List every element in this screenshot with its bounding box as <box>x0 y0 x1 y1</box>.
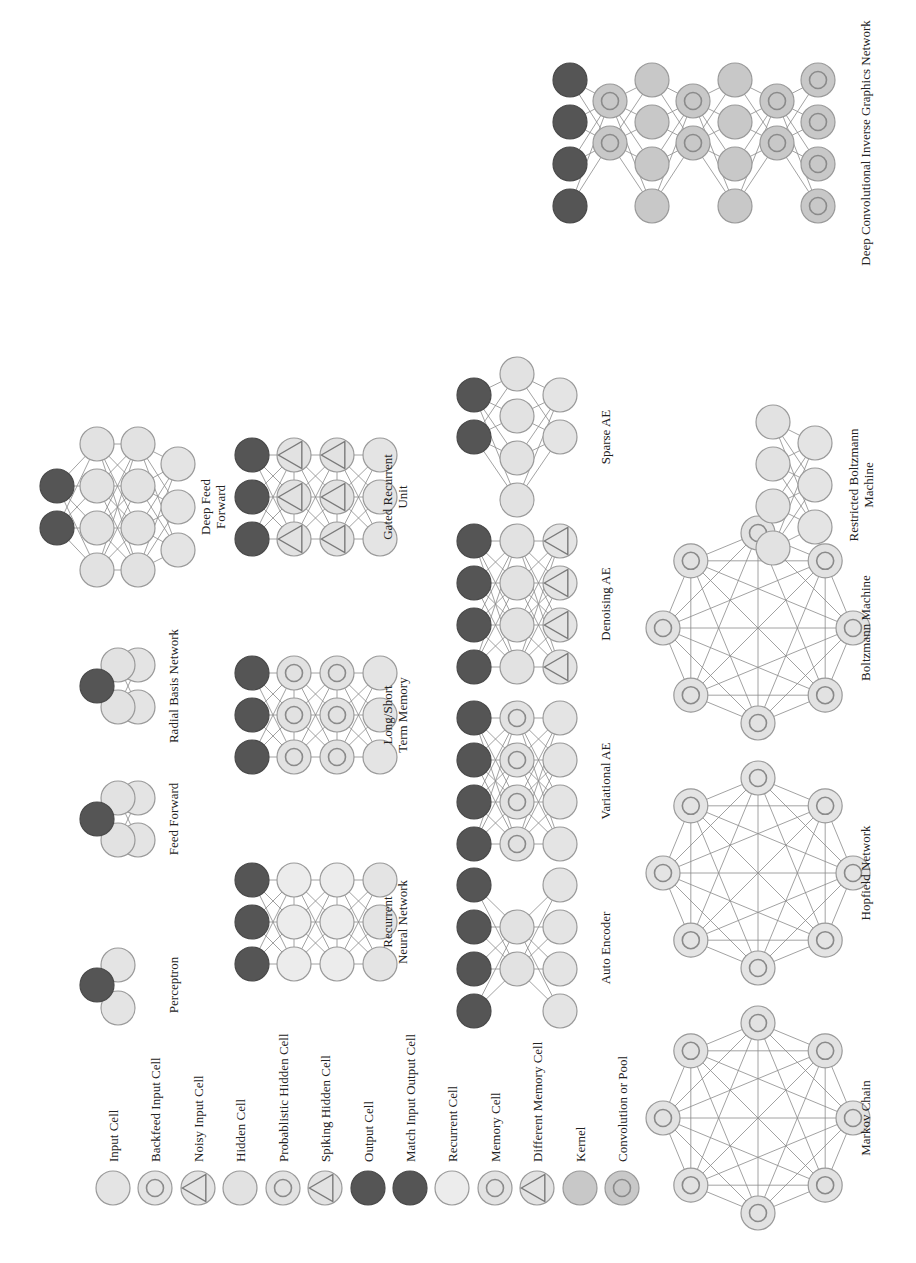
deep-feed-forward-cell-icon <box>161 447 195 481</box>
denoising-ae-cell-icon <box>543 524 577 558</box>
denoising-ae-cell-icon <box>457 650 491 684</box>
rnn-cell-icon <box>363 863 397 897</box>
legend-label-backfeed-input-cell: Backfeed Input Cell <box>148 1057 163 1162</box>
label-feed-forward: Feed Forward <box>166 782 181 855</box>
legend-recurrent-cell-cell-icon <box>435 1171 469 1205</box>
label-sparse-ae: Sparse AE <box>598 410 613 465</box>
dcign-cell-icon <box>553 147 587 181</box>
denoising-ae-cell-icon <box>543 608 577 642</box>
legend-backfeed-input-cell-cell-icon <box>138 1171 172 1205</box>
nodes-layer <box>40 63 870 1230</box>
legend-label-kernel: Kernel <box>573 1126 588 1162</box>
legend-label-convolution-or-pool: Convolution or Pool <box>615 1055 630 1162</box>
auto-encoder-cell-icon <box>500 952 534 986</box>
auto-encoder-cell-icon <box>543 994 577 1028</box>
variational-ae-cell-icon <box>500 743 534 777</box>
variational-ae-cell-icon <box>457 743 491 777</box>
label-long-short-term-memory: Long/ShortTerm Memory <box>380 677 410 753</box>
sparse-ae-cell-icon <box>500 357 534 391</box>
boltzmann-cell-icon <box>646 611 680 645</box>
rbm-cell-icon <box>756 405 790 439</box>
label-deep-feed-forward: Deep FeedForward <box>198 479 228 535</box>
label-hopfield-network: Hopfield Network <box>858 825 873 920</box>
sparse-ae-cell-icon <box>543 420 577 454</box>
deep-feed-forward-cell-icon <box>161 490 195 524</box>
dcign-cell-icon <box>718 105 752 139</box>
perceptron-cell-icon <box>80 968 114 1002</box>
dcign-cell-icon <box>553 63 587 97</box>
label-gated-recurrent-unit: Gated RecurrentUnit <box>380 454 410 540</box>
auto-encoder-cell-icon <box>457 952 491 986</box>
variational-ae-cell-icon <box>457 701 491 735</box>
sparse-ae-cell-icon <box>457 420 491 454</box>
dcign-cell-icon <box>760 84 794 118</box>
sparse-ae-cell-icon <box>543 378 577 412</box>
deep-feed-forward-cell-icon <box>121 469 155 503</box>
lstm-cell-icon <box>320 656 354 690</box>
rbm-cell-icon <box>756 489 790 523</box>
rbm-cell-icon <box>798 510 832 544</box>
dcign-cell-icon <box>593 84 627 118</box>
legend-input-cell-cell-icon <box>96 1171 130 1205</box>
auto-encoder-cell-icon <box>457 910 491 944</box>
gru-cell-icon <box>277 438 311 472</box>
rnn-cell-icon <box>277 905 311 939</box>
dcign-cell-icon <box>593 126 627 160</box>
label-restricted-boltzmann-machine: Restricted BoltzmannMachine <box>846 428 876 542</box>
dcign-cell-icon <box>635 63 669 97</box>
rnn-cell-icon <box>320 947 354 981</box>
label-perceptron: Perceptron <box>166 956 181 1013</box>
hopfield-cell-icon <box>674 923 708 957</box>
sparse-ae-cell-icon <box>457 378 491 412</box>
auto-encoder-cell-icon <box>457 868 491 902</box>
legend-label-different-memory-cell: Different Memory Cell <box>530 1041 545 1162</box>
denoising-ae-cell-icon <box>500 524 534 558</box>
dcign-cell-icon <box>635 147 669 181</box>
rnn-cell-icon <box>320 863 354 897</box>
denoising-ae-cell-icon <box>500 650 534 684</box>
legend-memory-cell-cell-icon <box>478 1171 512 1205</box>
hopfield-cell-icon <box>808 923 842 957</box>
dcign-cell-icon <box>553 189 587 223</box>
gru-cell-icon <box>277 480 311 514</box>
dcign-cell-icon <box>676 126 710 160</box>
legend-convolution-or-pool-cell-icon <box>605 1171 639 1205</box>
rbm-cell-icon <box>756 531 790 565</box>
rbm-cell-icon <box>798 468 832 502</box>
dcign-cell-icon <box>718 63 752 97</box>
variational-ae-cell-icon <box>543 827 577 861</box>
boltzmann-cell-icon <box>808 678 842 712</box>
auto-encoder-cell-icon <box>543 910 577 944</box>
boltzmann-cell-icon <box>674 544 708 578</box>
legend-label-noisy-input-cell: Noisy Input Cell <box>191 1075 206 1162</box>
label-auto-encoder: Auto Encoder <box>598 911 613 984</box>
legend-spiking-hidden-cell-cell-icon <box>308 1171 342 1205</box>
denoising-ae-cell-icon <box>457 524 491 558</box>
markov-cell-icon <box>674 1168 708 1202</box>
rbm-cell-icon <box>756 447 790 481</box>
variational-ae-cell-icon <box>543 743 577 777</box>
hopfield-cell-icon <box>741 761 775 795</box>
dcign-cell-icon <box>553 105 587 139</box>
rnn-cell-icon <box>320 905 354 939</box>
dcign-cell-icon <box>676 84 710 118</box>
markov-cell-icon <box>741 1196 775 1230</box>
legend-label-spiking-hidden-cell: Spiking Hidden Cell <box>318 1055 333 1162</box>
label-boltzmann-machine: Boltzmann Machine <box>858 575 873 681</box>
label-markov-chain: Markov Chain <box>858 1080 873 1156</box>
gru-cell-icon <box>235 480 269 514</box>
deep-feed-forward-cell-icon <box>121 553 155 587</box>
diagram-canvas: Input CellBackfeed Input CellNoisy Input… <box>0 0 916 1263</box>
legend-noisy-input-cell-cell-icon <box>181 1171 215 1205</box>
feed-forward-cell-icon <box>80 802 114 836</box>
dcign-cell-icon <box>801 63 835 97</box>
boltzmann-cell-icon <box>674 678 708 712</box>
markov-cell-icon <box>646 1101 680 1135</box>
markov-cell-icon <box>808 1168 842 1202</box>
lstm-cell-icon <box>235 656 269 690</box>
rnn-cell-icon <box>363 947 397 981</box>
variational-ae-cell-icon <box>457 827 491 861</box>
radial-basis-cell-icon <box>80 669 114 703</box>
label-denoising-ae: Denoising AE <box>598 567 613 640</box>
gru-cell-icon <box>320 480 354 514</box>
